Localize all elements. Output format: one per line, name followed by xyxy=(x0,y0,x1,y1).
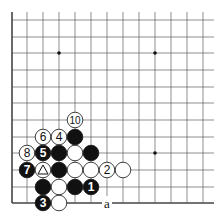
move-number-label: 10 xyxy=(69,115,81,126)
star-point xyxy=(57,51,61,55)
white-stone xyxy=(51,179,67,195)
black-stone xyxy=(83,145,99,161)
white-stone xyxy=(115,162,131,178)
move-number-label: 4 xyxy=(56,130,63,144)
star-point xyxy=(153,151,157,155)
white-stone xyxy=(67,145,83,161)
black-stone xyxy=(67,129,83,145)
black-stone xyxy=(51,145,67,161)
move-number-label: 6 xyxy=(40,130,47,144)
black-stone xyxy=(51,162,67,178)
white-stone xyxy=(83,162,99,178)
move-number-label: 3 xyxy=(40,196,47,210)
star-point xyxy=(153,51,157,55)
black-stone xyxy=(67,179,83,195)
white-stone xyxy=(51,195,67,211)
move-number-label: 1 xyxy=(88,180,95,194)
move-number-label: 7 xyxy=(24,163,31,177)
black-stone xyxy=(35,179,51,195)
move-number-label: 2 xyxy=(104,163,111,177)
go-board: 1064857213a xyxy=(0,0,222,216)
move-number-label: 5 xyxy=(40,146,47,160)
move-number-label: 8 xyxy=(24,146,31,160)
point-label-a: a xyxy=(104,196,110,211)
white-stone xyxy=(67,162,83,178)
